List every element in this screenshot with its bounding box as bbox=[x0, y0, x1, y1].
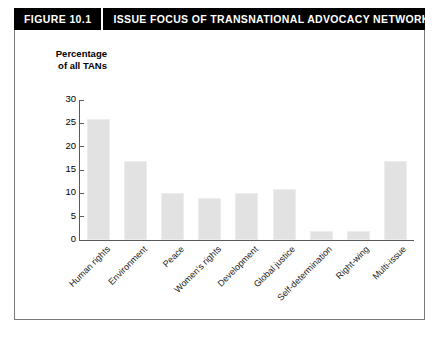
figure-container: FIGURE 10.1 ISSUE FOCUS OF TRANSNATIONAL… bbox=[0, 0, 440, 339]
y-tick-label: 30 bbox=[65, 93, 76, 104]
bar bbox=[273, 189, 296, 240]
y-tick-label: 0 bbox=[71, 233, 76, 244]
bar bbox=[161, 193, 184, 240]
bar bbox=[347, 231, 370, 240]
bar bbox=[384, 161, 407, 240]
x-axis-label: Multi-issue bbox=[371, 244, 408, 281]
y-axis-caption: Percentage of all TANs bbox=[23, 48, 107, 72]
x-axis-label: Human rights bbox=[67, 244, 112, 289]
y-tick-label: 25 bbox=[65, 116, 76, 127]
x-axis-label: Peace bbox=[161, 244, 186, 269]
bar bbox=[124, 161, 147, 240]
bar bbox=[235, 193, 258, 240]
y-axis-caption-line-1: Percentage bbox=[23, 48, 107, 60]
y-tick-label: 10 bbox=[65, 186, 76, 197]
y-tick-label: 20 bbox=[65, 140, 76, 151]
bar bbox=[310, 231, 333, 240]
figure-title: ISSUE FOCUS OF TRANSNATIONAL ADVOCACY NE… bbox=[103, 13, 440, 25]
bar bbox=[198, 198, 221, 240]
y-tick-label: 5 bbox=[71, 210, 76, 221]
figure-number-label: FIGURE 10.1 bbox=[14, 13, 101, 25]
x-axis-label: Right-wing bbox=[334, 244, 371, 281]
figure-frame: Percentage of all TANs 051015202530 Huma… bbox=[14, 30, 425, 320]
figure-header-bar: FIGURE 10.1 ISSUE FOCUS OF TRANSNATIONAL… bbox=[14, 8, 425, 30]
y-axis-caption-line-2: of all TANs bbox=[23, 60, 107, 72]
y-tick-label: 15 bbox=[65, 163, 76, 174]
bar-series bbox=[80, 100, 414, 240]
plot-area: 051015202530 Human rightsEnvironmentPeac… bbox=[79, 100, 414, 241]
bar bbox=[87, 119, 110, 240]
